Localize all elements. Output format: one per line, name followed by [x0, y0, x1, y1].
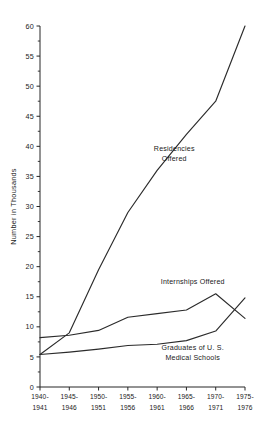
- x-tick-label-line: 1941: [32, 404, 47, 411]
- x-tick-label-line: 1971: [208, 404, 223, 411]
- x-tick-label-line: 1945-: [61, 393, 78, 400]
- y-tick-label: 45: [26, 112, 34, 121]
- series-label-line: Internships Offered: [161, 278, 225, 286]
- x-tick-label-line: 1966: [179, 404, 194, 411]
- y-tick-label: 0: [30, 383, 34, 392]
- x-tick-label-line: 1970-: [207, 393, 224, 400]
- x-tick-label-line: 1956: [120, 404, 135, 411]
- y-tick-label: 55: [26, 52, 34, 61]
- y-tick-label: 30: [26, 202, 34, 211]
- y-tick-label: 25: [26, 232, 34, 241]
- series-label-line: Graduates of U. S.: [162, 344, 224, 352]
- y-tick-label: 50: [26, 82, 34, 91]
- series-label-internships: Internships Offered: [161, 278, 225, 286]
- series-label-line: Offered: [162, 155, 187, 163]
- x-tick-label-line: 1976: [237, 404, 252, 411]
- x-tick-label-line: 1955-: [119, 393, 136, 400]
- y-tick-label: 40: [26, 142, 34, 151]
- x-tick-label-line: 1975-: [236, 393, 253, 400]
- x-tick-label-line: 1946: [62, 404, 77, 411]
- axis-titles: Number in Thousands: [9, 168, 18, 245]
- y-tick-label: 5: [30, 353, 34, 362]
- x-tick-label-line: 1951: [91, 404, 106, 411]
- x-tick-label-line: 1940-: [31, 393, 48, 400]
- line-chart: 051015202530354045505560 1940-19411945-1…: [0, 0, 265, 435]
- x-tick-label-line: 1960-: [148, 393, 165, 400]
- x-tick-label-line: 1965-: [178, 393, 195, 400]
- y-tick-label: 15: [26, 292, 34, 301]
- y-tick-label: 10: [26, 322, 34, 331]
- y-tick-label: 35: [26, 172, 34, 181]
- y-axis-title: Number in Thousands: [9, 168, 18, 245]
- y-tick-label: 20: [26, 262, 34, 271]
- x-tick-label-line: 1961: [150, 404, 165, 411]
- chart-canvas: 051015202530354045505560 1940-19411945-1…: [0, 0, 265, 435]
- series-label-line: Residencies: [154, 145, 195, 153]
- x-tick-label-line: 1950-: [90, 393, 107, 400]
- y-tick-label: 60: [26, 22, 34, 31]
- series-label-line: Medical Schools: [165, 354, 220, 362]
